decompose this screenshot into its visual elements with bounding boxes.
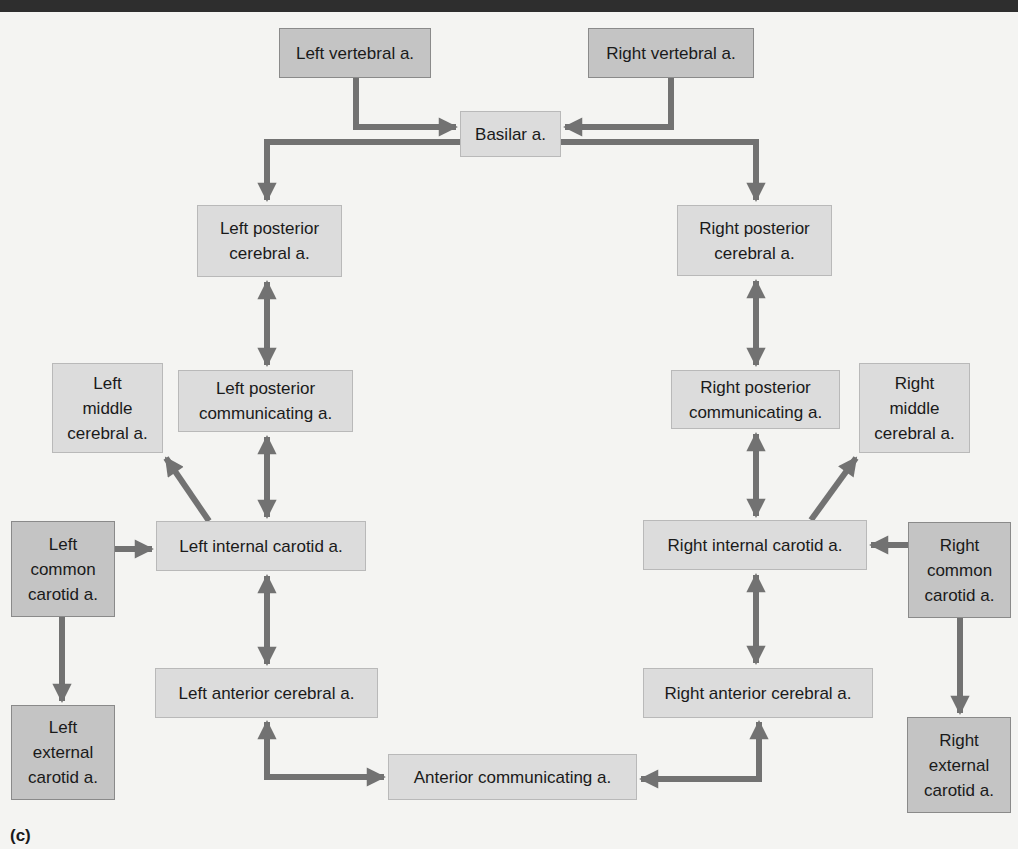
node-label: Anterior communicating a.: [414, 765, 611, 790]
node-label: Right vertebral a.: [606, 41, 735, 66]
arrow-left-aca-acom: [267, 722, 384, 777]
node-label: Basilar a.: [475, 122, 546, 147]
node-label: Right posterior communicating a.: [689, 375, 822, 425]
node-right-internal-carotid: Right internal carotid a.: [643, 520, 867, 570]
node-left-middle-cerebral: Left middle cerebral a.: [52, 363, 163, 453]
node-right-external-carotid: Right external carotid a.: [907, 717, 1011, 813]
node-label: Left middle cerebral a.: [67, 371, 147, 446]
node-label: Right common carotid a.: [925, 533, 995, 608]
node-label: Left vertebral a.: [296, 41, 414, 66]
arrow-basilar-to-left-posterior-cerebral: [267, 142, 460, 200]
node-right-vertebral: Right vertebral a.: [588, 28, 754, 78]
node-label: Left internal carotid a.: [179, 534, 342, 559]
node-label: Left anterior cerebral a.: [179, 681, 355, 706]
node-left-anterior-cerebral: Left anterior cerebral a.: [155, 668, 378, 718]
node-label: Left posterior communicating a.: [199, 376, 332, 426]
node-anterior-communicating: Anterior communicating a.: [388, 754, 637, 800]
node-label: Left common carotid a.: [28, 532, 98, 607]
node-left-vertebral: Left vertebral a.: [279, 28, 431, 78]
node-label: Left external carotid a.: [28, 715, 98, 790]
arrow-left-ica-to-mca: [166, 458, 209, 521]
node-label: Right middle cerebral a.: [874, 371, 954, 446]
arrow-left-vertebral-to-basilar: [356, 78, 456, 127]
node-right-anterior-cerebral: Right anterior cerebral a.: [643, 668, 873, 718]
node-right-posterior-communicating: Right posterior communicating a.: [671, 370, 840, 429]
node-label: Right posterior cerebral a.: [699, 216, 810, 266]
node-left-common-carotid: Left common carotid a.: [11, 521, 115, 617]
node-label: Left posterior cerebral a.: [220, 216, 319, 266]
node-right-common-carotid: Right common carotid a.: [908, 522, 1011, 618]
arrow-right-aca-acom: [641, 722, 759, 779]
arrow-right-vertebral-to-basilar: [565, 78, 671, 127]
node-label: Right external carotid a.: [924, 728, 994, 803]
node-left-internal-carotid: Left internal carotid a.: [156, 521, 366, 571]
node-left-posterior-communicating: Left posterior communicating a.: [178, 370, 353, 432]
node-basilar: Basilar a.: [460, 111, 561, 157]
node-label: Right internal carotid a.: [668, 533, 843, 558]
node-left-external-carotid: Left external carotid a.: [11, 705, 115, 800]
node-label: Right anterior cerebral a.: [664, 681, 851, 706]
arrow-right-ica-to-mca: [811, 458, 856, 520]
arrow-basilar-to-right-posterior-cerebral: [561, 142, 756, 200]
node-right-posterior-cerebral: Right posterior cerebral a.: [677, 205, 832, 276]
node-right-middle-cerebral: Right middle cerebral a.: [859, 363, 970, 453]
panel-label: (c): [10, 826, 31, 846]
node-left-posterior-cerebral: Left posterior cerebral a.: [197, 205, 342, 277]
